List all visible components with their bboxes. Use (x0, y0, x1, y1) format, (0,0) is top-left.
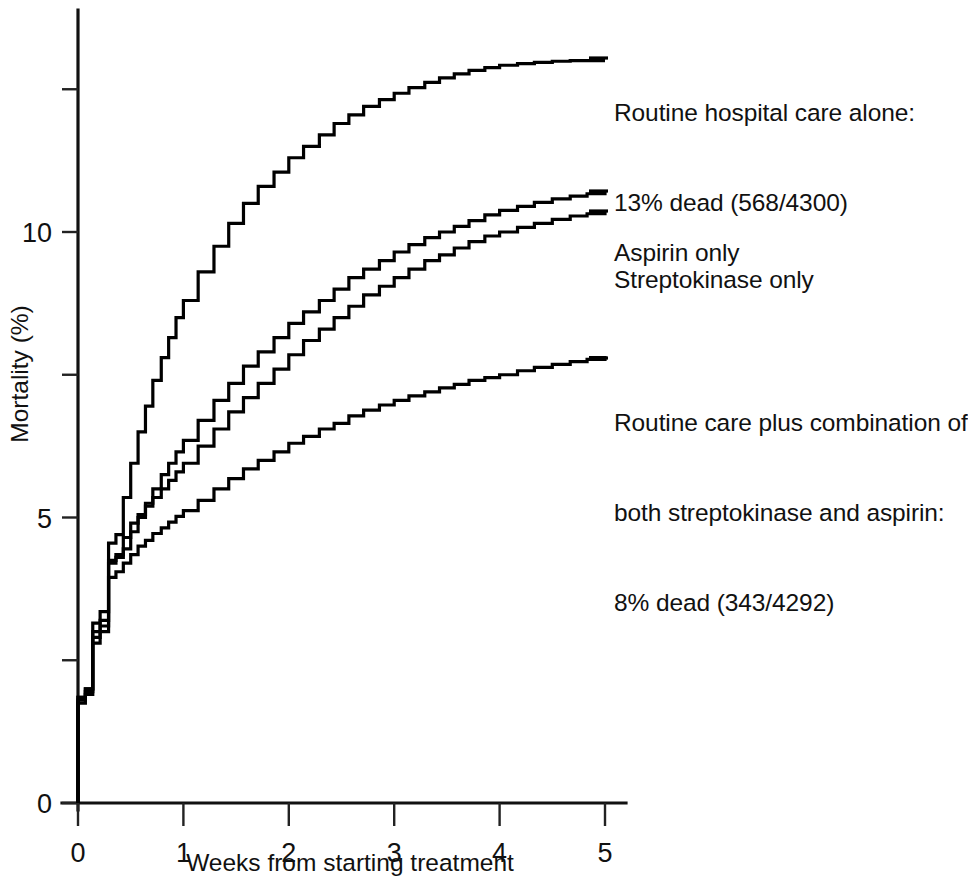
annotation-streptokinase-only: Streptokinase only (614, 205, 814, 355)
y-tick-label-10: 10 (22, 218, 52, 248)
x-axis-ticks (78, 803, 605, 826)
y-axis-title-wrap: Mortality (%) (6, 264, 34, 484)
y-tick-label-5: 5 (37, 504, 52, 534)
series-line-2 (78, 212, 605, 803)
x-axis-title-wrap: Weeks from starting treatment (0, 849, 700, 877)
y-tick-label-0: 0 (37, 789, 52, 819)
annotation-combination: Routine care plus combination of both st… (614, 348, 968, 678)
annotation-combination-line1: Routine care plus combination of (614, 408, 968, 438)
y-axis-title: Mortality (%) (6, 305, 33, 442)
series-line-0 (78, 61, 605, 803)
annotation-routine-care-alone-line1: Routine hospital care alone: (614, 98, 915, 128)
series-line-3 (78, 358, 605, 803)
x-axis-title: Weeks from starting treatment (186, 849, 514, 876)
annotation-streptokinase-only-line1: Streptokinase only (614, 265, 814, 295)
y-axis-ticks (62, 89, 78, 803)
annotation-combination-line2: both streptokinase and aspirin: (614, 498, 968, 528)
chart-series-group (78, 61, 605, 803)
annotation-combination-line3: 8% dead (343/4292) (614, 588, 968, 618)
